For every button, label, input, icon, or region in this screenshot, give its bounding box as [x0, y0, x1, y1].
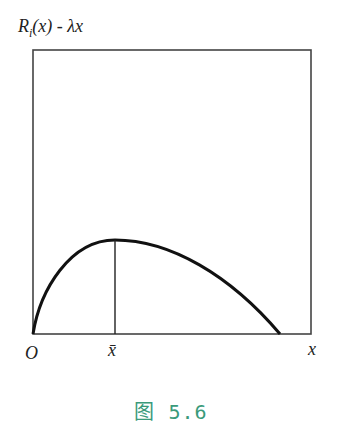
origin-label: O	[25, 343, 38, 364]
figure-caption: 图 5.6	[0, 396, 342, 425]
plot-area	[0, 0, 342, 439]
x-axis-label: x	[308, 339, 316, 360]
plot-frame	[33, 50, 311, 334]
xbar-label: x̄	[108, 340, 116, 361]
curve	[33, 240, 280, 334]
